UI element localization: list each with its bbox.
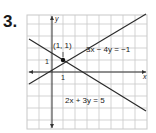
intersection-label: (1, 1) xyxy=(53,41,72,50)
equation-label-2: 2x + 3y = 5 xyxy=(65,96,105,105)
equation-label-1: 3x − 4y = −1 xyxy=(86,45,131,54)
intersection-point xyxy=(61,58,65,62)
coordinate-graph: y x 1 1 (1, 1) 3x − 4y = −1 2x + 3y = 5 xyxy=(0,0,156,133)
y-tick-label: 1 xyxy=(45,58,49,65)
x-axis-label: x xyxy=(142,73,147,80)
x-tick-label: 1 xyxy=(61,74,65,81)
y-axis-label: y xyxy=(54,15,59,23)
